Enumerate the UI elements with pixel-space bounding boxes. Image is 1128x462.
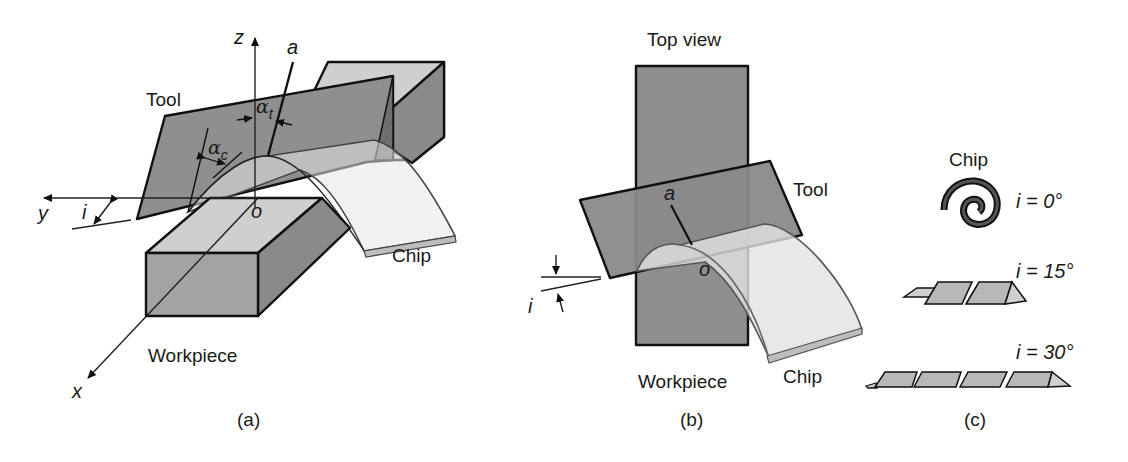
axis-y-label: y (36, 202, 49, 224)
chip-label-a: Chip (392, 245, 431, 266)
oblique-cutting-figure: z a Tool αt αc y i o Chip Workpiece x (a… (0, 0, 1128, 462)
workpiece-label-b: Workpiece (638, 371, 727, 392)
inclination-edge-b (541, 279, 601, 291)
tool-label-b: Tool (793, 179, 828, 200)
case-label-1: i = 15° (1016, 260, 1073, 282)
helical-chip-short-icon (904, 282, 1026, 304)
panel-c: Chip i = 0° i = 15° i = 30° (c) (866, 149, 1073, 430)
origin-label-a: o (251, 200, 262, 222)
workpiece-block (146, 198, 350, 316)
case-label-2: i = 30° (1016, 341, 1073, 363)
chip-title-c: Chip (949, 149, 988, 170)
inclination-label-b: i (528, 295, 533, 317)
caption-c: (c) (964, 409, 986, 430)
inclination-arrow-bottom-b (558, 294, 563, 312)
case-label-0: i = 0° (1016, 190, 1062, 212)
workpiece-label-a: Workpiece (148, 345, 237, 366)
origin-label-b: o (699, 258, 710, 280)
inclination-ref-line (72, 220, 131, 229)
tool-label-a: Tool (146, 89, 181, 110)
inclination-arrow (94, 203, 110, 224)
top-view-label: Top view (647, 29, 721, 50)
inclination-label-a: i (82, 201, 87, 223)
caption-a: (a) (237, 409, 260, 430)
panel-b: Top view a Tool o i Workpiece Chip (b) (528, 29, 862, 430)
spiral-chip-icon (944, 181, 997, 224)
panel-a: z a Tool αt αc y i o Chip Workpiece x (a… (36, 26, 456, 430)
line-a-label-b: a (664, 182, 675, 204)
caption-b: (b) (680, 409, 703, 430)
axis-z-label: z (233, 26, 244, 48)
axis-x-label: x (71, 380, 83, 402)
line-a-label: a (287, 36, 298, 58)
helical-chip-long-icon (866, 372, 1070, 388)
chip-label-b: Chip (783, 366, 822, 387)
